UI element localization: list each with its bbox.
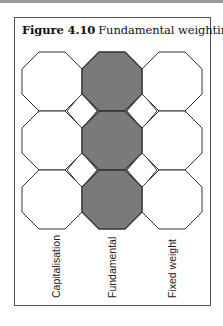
column-fundamental (82, 52, 142, 229)
octagon-r1-c2 (82, 52, 142, 111)
column-label-fixed-weight: Fixed weight (166, 239, 178, 298)
octagon-r3-c1 (22, 170, 82, 229)
octagon-r1-c1 (22, 52, 82, 111)
octagon-r1-c3 (142, 52, 202, 111)
column-capitalisation (22, 52, 82, 229)
octagon-r2-c2 (82, 111, 142, 170)
column-label-capitalisation: Capitalisation (50, 235, 62, 298)
octagon-r2-c1 (22, 111, 82, 170)
column-fixed-weight (142, 52, 202, 229)
octagon-r3-c2 (82, 170, 142, 229)
octagon-r2-c3 (142, 111, 202, 170)
column-label-fundamental: Fundamental (106, 237, 118, 298)
octagon-r3-c3 (142, 170, 202, 229)
